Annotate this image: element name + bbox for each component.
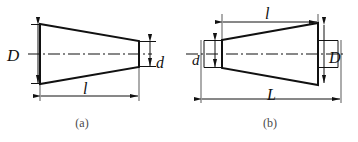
figure-b-group xyxy=(186,14,344,103)
technical-drawing-svg xyxy=(0,0,358,142)
figure-a-group xyxy=(28,24,156,101)
diagram-canvas: D d l l d D L (a) (b) xyxy=(0,0,358,142)
